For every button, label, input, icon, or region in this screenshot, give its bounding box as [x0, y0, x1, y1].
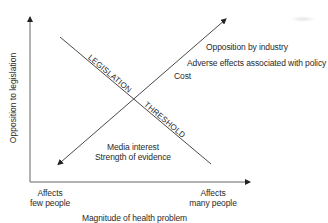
scan-artifact: [290, 16, 316, 22]
x-tick-right-line2: many people: [183, 198, 243, 208]
factor-media-interest: Media interest: [98, 142, 168, 152]
x-tick-right-line1: Affects: [188, 188, 238, 198]
factor-opposition-by-industry: Opposition by industry: [206, 42, 288, 52]
x-tick-left-line2: few people: [28, 198, 72, 208]
x-tick-left-line1: Affects: [30, 188, 70, 198]
factor-adverse-effects: Adverse effects associated with policy: [187, 58, 326, 68]
factor-strength-of-evidence: Strength of evidence: [88, 152, 178, 162]
pressure-arrow-line: [61, 19, 226, 162]
x-axis-label: Magnitude of health problem: [82, 213, 187, 223]
legislation-threshold-diagram: Opposition to legislation LEGISLATION TH…: [0, 0, 328, 223]
y-axis-label: Opposition to legislation: [8, 53, 18, 143]
factor-cost: Cost: [174, 71, 191, 81]
